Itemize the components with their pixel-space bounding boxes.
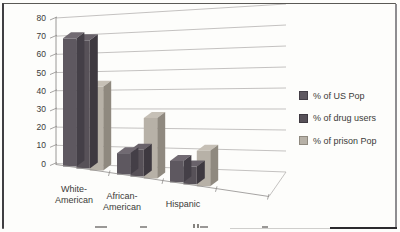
figure: 01020304050607080 White- American Africa… bbox=[0, 0, 400, 232]
category-label-line: American bbox=[103, 202, 141, 212]
category-label-white-american: White- American bbox=[48, 184, 100, 206]
legend-swatch-drug-users bbox=[299, 114, 308, 123]
category-axis-tick bbox=[162, 178, 164, 184]
legend-item-prison-pop: % of prison Pop bbox=[299, 136, 377, 145]
bar-hispanic-of-prison-pop-side-face bbox=[210, 145, 218, 187]
bar-white-american-of-us-pop-side-face bbox=[76, 32, 84, 166]
legend-label-drug-users: % of drug users bbox=[313, 113, 376, 123]
legend-label-prison-pop: % of prison Pop bbox=[313, 136, 377, 146]
frame-border-bottom bbox=[330, 227, 397, 229]
bar-african-american-of-us-pop bbox=[117, 153, 130, 174]
frame-border-bottom-faint bbox=[230, 228, 330, 229]
y-axis-tick-label: 0 bbox=[41, 159, 46, 169]
category-label-line: Hispanic bbox=[166, 199, 201, 209]
y-axis-tick-label: 40 bbox=[37, 86, 47, 96]
category-label-line: African- bbox=[106, 191, 137, 201]
y-axis-tick-label: 60 bbox=[37, 49, 47, 59]
legend: % of US Pop % of drug users % of prison … bbox=[299, 91, 377, 159]
y-axis-tick-label: 50 bbox=[37, 68, 47, 78]
bar-african-american-of-prison-pop-side-face bbox=[157, 112, 165, 179]
bar-white-american-of-prison-pop-side-face bbox=[103, 81, 111, 171]
caption-fragment bbox=[200, 226, 208, 228]
caption-fragment bbox=[197, 224, 199, 228]
frame-border-left bbox=[2, 3, 4, 229]
y-axis-tick-label: 70 bbox=[37, 31, 47, 41]
caption-fragment bbox=[95, 226, 107, 228]
y-axis-tick-label: 30 bbox=[37, 104, 47, 114]
caption-fragment bbox=[140, 226, 147, 228]
y-axis-tick-label: 10 bbox=[37, 140, 47, 150]
gridline-80 bbox=[56, 4, 286, 18]
legend-item-us-pop: % of US Pop bbox=[299, 91, 377, 100]
category-axis-tick bbox=[109, 170, 111, 176]
frame-border-right bbox=[395, 4, 396, 228]
bar-hispanic-of-us-pop bbox=[170, 161, 183, 182]
category-label-african-american: African- American bbox=[96, 191, 148, 213]
y-axis-tick-label: 20 bbox=[37, 122, 47, 132]
legend-label-us-pop: % of US Pop bbox=[313, 91, 365, 101]
floor-right-edge bbox=[269, 172, 286, 197]
category-label-line: White- bbox=[61, 184, 87, 194]
category-label-hispanic: Hispanic bbox=[157, 199, 209, 210]
y-axis-tick-label: 80 bbox=[37, 13, 47, 23]
bar-white-american-of-us-pop bbox=[63, 38, 76, 166]
legend-swatch-us-pop bbox=[299, 91, 308, 100]
category-axis-tick bbox=[216, 186, 218, 192]
caption-fragment bbox=[193, 224, 195, 228]
bar-white-american-of-drug-users-side-face bbox=[90, 34, 98, 168]
legend-item-drug-users: % of drug users bbox=[299, 114, 377, 123]
legend-swatch-prison-pop bbox=[299, 136, 308, 145]
category-label-line: American bbox=[55, 195, 93, 205]
